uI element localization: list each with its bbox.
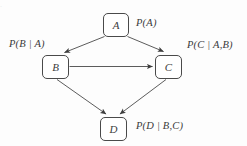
probability-label-d: P(D | B,C) xyxy=(136,120,183,131)
probability-label-c: P(C | A,B) xyxy=(187,39,233,50)
node-c[interactable]: C xyxy=(155,55,182,79)
edge-a-to-c xyxy=(128,37,164,52)
node-a-label: A xyxy=(113,20,120,31)
node-a[interactable]: A xyxy=(103,13,129,37)
edge-b-to-d xyxy=(57,80,106,115)
node-c-label: C xyxy=(165,62,172,73)
prob-d-text: P(D | B,C) xyxy=(136,120,183,131)
probability-label-a: P(A) xyxy=(136,17,157,28)
prob-c-text: P(C | A,B) xyxy=(187,39,233,50)
prob-a-text: P(A) xyxy=(136,17,157,28)
edge-a-to-b xyxy=(65,37,105,53)
node-d-label: D xyxy=(110,124,118,135)
prob-b-text: P(B | A) xyxy=(9,38,45,49)
diagram-canvas: . A B C D P(A) P(B | A) xyxy=(0,0,247,146)
node-d[interactable]: D xyxy=(100,117,127,141)
node-b[interactable]: B xyxy=(42,55,69,79)
edge-c-to-d xyxy=(120,80,166,115)
node-b-label: B xyxy=(52,62,59,73)
probability-label-b: P(B | A) xyxy=(9,38,45,49)
